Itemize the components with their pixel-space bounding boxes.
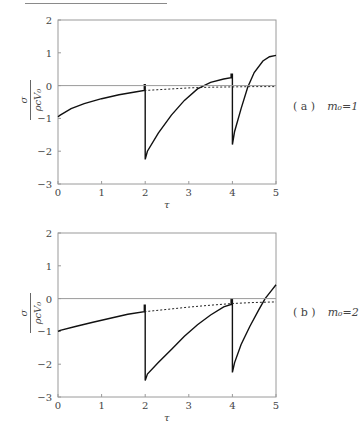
y-label-denominator: ρcV₀ <box>31 293 43 333</box>
y-tick-label: −2 <box>37 359 52 370</box>
y-label-denominator: ρcV₀ <box>31 80 43 120</box>
chart-panel-a: 012345210−1−2−3 σ ρcV₀ τ ( a )m₀=1 <box>0 0 361 215</box>
plot-b-svg: 012345210−1−2−3 <box>0 213 361 428</box>
y-tick-label: 1 <box>46 261 52 272</box>
x-tick-label: 3 <box>186 400 192 411</box>
x-axis-label: τ <box>164 412 170 423</box>
y-tick-label: 2 <box>46 228 52 239</box>
caption-param: m₀=1 <box>327 100 358 113</box>
y-tick-label: 0 <box>46 81 52 92</box>
plot-frame <box>58 233 276 397</box>
x-tick-label: 4 <box>229 400 235 411</box>
series-dashed <box>144 302 276 312</box>
caption-label: ( a ) <box>293 100 315 113</box>
series-solid <box>58 55 276 159</box>
x-tick-label: 0 <box>55 187 61 198</box>
y-tick-label: 2 <box>46 15 52 26</box>
y-label-numerator: σ <box>19 80 31 120</box>
y-tick-label: −3 <box>37 179 52 190</box>
caption-param: m₀=2 <box>328 306 359 319</box>
caption-label: ( b ) <box>293 306 316 319</box>
y-tick-label: −3 <box>37 392 52 403</box>
y-tick-label: 0 <box>46 294 52 305</box>
x-axis-label: τ <box>164 199 170 210</box>
x-tick-label: 1 <box>98 187 104 198</box>
y-label-numerator: σ <box>19 293 31 333</box>
y-axis-label: σ ρcV₀ <box>19 293 43 333</box>
x-tick-label: 5 <box>273 400 279 411</box>
panel-caption: ( a )m₀=1 <box>293 100 358 113</box>
x-tick-label: 5 <box>273 187 279 198</box>
y-axis-label: σ ρcV₀ <box>19 80 43 120</box>
panel-caption: ( b )m₀=2 <box>293 306 359 319</box>
x-tick-label: 1 <box>98 400 104 411</box>
y-tick-label: −2 <box>37 146 52 157</box>
x-tick-label: 3 <box>186 187 192 198</box>
y-tick-label: 1 <box>46 48 52 59</box>
x-tick-label: 2 <box>142 400 148 411</box>
x-tick-label: 0 <box>55 400 61 411</box>
series-solid <box>58 285 276 381</box>
series-dashed <box>144 87 276 91</box>
x-tick-label: 4 <box>229 187 235 198</box>
x-tick-label: 2 <box>142 187 148 198</box>
chart-panel-b: 012345210−1−2−3 σ ρcV₀ τ ( b )m₀=2 <box>0 213 361 428</box>
